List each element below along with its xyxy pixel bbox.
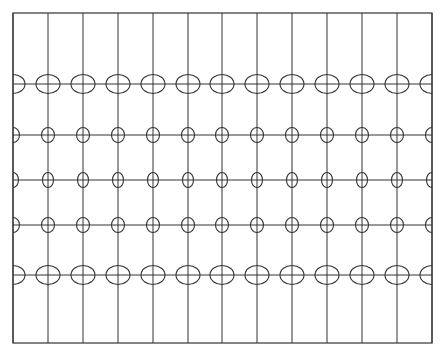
meridian-lines <box>13 13 432 343</box>
tissot-grid <box>0 0 446 356</box>
projection-diagram <box>0 0 446 356</box>
